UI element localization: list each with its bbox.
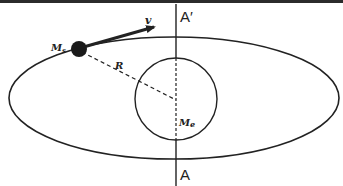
radius-line	[82, 52, 176, 100]
orbit-ellipse	[9, 37, 339, 159]
satellite-dot	[71, 41, 87, 57]
satellite-mass-label: Ms	[50, 42, 66, 55]
axis-top-label: A′	[180, 8, 193, 25]
radius-label: R	[114, 60, 123, 71]
velocity-label: v	[145, 14, 152, 27]
earth-mass-label: Me	[178, 117, 195, 129]
orbit-diagram: Ms v R Me A′ A	[0, 0, 343, 186]
axis-bottom-label: A	[180, 166, 190, 183]
